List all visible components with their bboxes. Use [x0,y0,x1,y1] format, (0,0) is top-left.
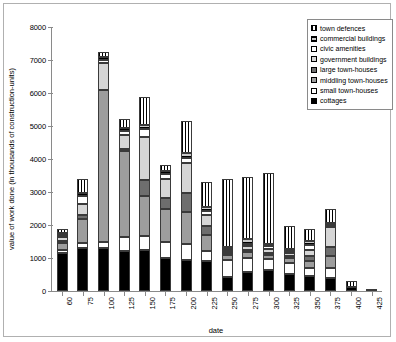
bar-segment-large [325,247,336,256]
bar-segment-gov [181,163,192,193]
y-tick-label: 5000 [30,122,46,131]
bar-segment-cottages [304,276,315,292]
y-tick-mark [48,60,53,61]
bar-segment-defences [181,121,192,154]
x-axis-label: date [51,326,381,335]
bar-stack[interactable] [325,209,336,291]
y-tick-mark [48,93,53,94]
bar-stack[interactable] [57,229,68,291]
y-tick-label: 4000 [30,155,46,164]
x-tick-label: 400 [354,297,363,310]
bar-stack[interactable] [181,121,192,291]
bar-segment-gov [325,227,336,247]
legend-label: civic amenities [320,45,366,52]
y-tick-mark [48,126,53,127]
chart-legend: town defencescommercial buildingscivic a… [307,19,393,110]
bar-segment-gov [119,135,130,150]
bar-stack[interactable] [160,165,171,291]
bar-segment-large [181,193,192,213]
legend-item[interactable]: large town-houses [311,65,388,75]
bar-stack[interactable] [304,229,315,291]
legend-label: middling town-houses [320,77,388,84]
bar-segment-gov [201,215,212,226]
x-tick-mark [62,291,63,296]
x-tick-label: 225 [210,297,219,310]
legend-swatch-icon [311,25,317,31]
bar-segment-defences [139,97,150,125]
x-tick-mark [248,291,249,296]
legend-swatch-icon [311,36,317,42]
x-tick-label: 425 [375,297,384,310]
bar-segment-defences [325,209,336,223]
bar-segment-small [325,268,336,278]
bar-segment-defences [304,229,315,241]
legend-label: cottages [320,97,346,104]
bar-segment-defences [77,179,88,193]
bar-segment-gov [139,137,150,180]
y-tick-label: 1000 [30,254,46,263]
legend-item[interactable]: middling town-houses [311,75,388,85]
legend-item[interactable]: town defences [311,23,388,33]
bar-stack[interactable] [284,226,295,291]
x-tick-label: 300 [272,297,281,310]
bar-segment-middling [304,261,315,268]
x-tick-label: 75 [86,297,95,305]
bar-segment-small [263,259,274,270]
bar-segment-middling [77,219,88,242]
legend-swatch-icon [311,56,317,62]
x-tick-mark [145,291,146,296]
legend-item[interactable]: small town-houses [311,85,388,95]
x-tick-mark [207,291,208,296]
bar-segment-large [201,226,212,235]
bar-segment-defences [263,173,274,245]
legend-swatch-icon [311,46,317,52]
y-tick-label: 3000 [30,188,46,197]
x-tick-mark [165,291,166,296]
bar-segment-small [284,263,295,274]
x-tick-mark [372,291,373,296]
legend-item[interactable]: civic amenities [311,44,388,54]
bar-stack[interactable] [77,179,88,291]
bar-segment-small [242,258,253,272]
bar-stack[interactable] [242,177,253,291]
bar-segment-defences [119,119,130,128]
bar-segment-cottages [98,248,109,291]
y-tick-label: 6000 [30,89,46,98]
legend-swatch-icon [311,88,317,94]
y-tick-label: 7000 [30,56,46,65]
legend-item[interactable]: cottages [311,96,388,106]
bar-segment-cottages [263,270,274,291]
bar-segment-small [98,242,109,249]
bar-stack[interactable] [139,97,150,291]
bar-stack[interactable] [119,119,130,291]
legend-label: town defences [320,25,365,32]
x-tick-mark [351,291,352,296]
bar-stack[interactable] [222,179,233,291]
bar-stack[interactable] [201,182,212,291]
bar-segment-cottages [284,274,295,291]
legend-item[interactable]: government buildings [311,54,388,64]
bar-stack[interactable] [98,52,109,291]
bar-segment-cottages [139,250,150,291]
y-tick-mark [48,192,53,193]
bar-segment-cottages [201,261,212,291]
y-tick-mark [48,225,53,226]
bar-segment-small [222,260,233,277]
y-axis-label: value of work done (in thousands of cons… [7,68,16,250]
bar-stack[interactable] [346,281,357,291]
bar-segment-middling [181,212,192,243]
bar-segment-defences [222,179,233,247]
legend-item[interactable]: commercial buildings [311,33,388,43]
bar-segment-cottages [325,278,336,291]
bar-segment-middling [325,256,336,268]
bar-segment-cottages [181,260,192,291]
bar-segment-small [119,237,130,252]
y-tick-mark [48,159,53,160]
y-tick-label: 0 [42,287,46,296]
bar-segment-middling [139,196,150,236]
bar-segment-small [160,242,171,258]
x-tick-label: 100 [107,297,116,310]
y-tick-mark [48,291,53,292]
x-tick-mark [186,291,187,296]
bar-stack[interactable] [263,173,274,291]
